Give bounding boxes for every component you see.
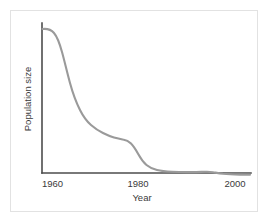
chart-figure: 1960 1980 2000 Year Population size [10,10,258,212]
population-size-curve [43,29,251,175]
x-tick-label-1980: 1980 [127,178,148,189]
x-tick-label-2000: 2000 [224,178,245,189]
population-decline-line-chart: 1960 1980 2000 Year Population size [11,11,257,211]
y-axis-title: Population size [22,67,33,131]
x-tick-label-1960: 1960 [42,178,63,189]
x-axis-title: Year [132,192,151,203]
